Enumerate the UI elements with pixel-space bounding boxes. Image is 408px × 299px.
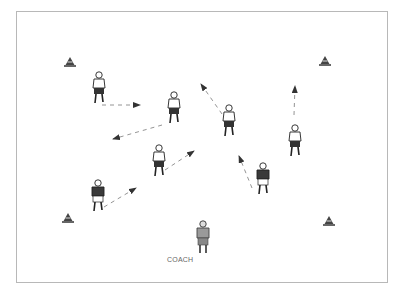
run-arrow	[201, 84, 222, 114]
player-white	[93, 72, 105, 103]
run-arrow	[294, 86, 295, 115]
drill-diagram	[0, 0, 408, 299]
cone-bottom-left	[62, 213, 74, 223]
pass-arrow	[104, 188, 136, 207]
player-white	[153, 145, 165, 176]
player-white	[289, 125, 301, 156]
player-dark	[257, 163, 269, 194]
cone-top-right	[319, 56, 331, 66]
run-arrow	[239, 156, 252, 188]
player-dark	[92, 180, 104, 211]
pass-arrow	[113, 125, 162, 139]
coach-label: COACH	[167, 256, 193, 263]
coach-figure	[197, 221, 209, 253]
cone-top-left	[64, 57, 76, 67]
cone-bottom-right	[323, 216, 335, 226]
player-white	[168, 92, 180, 123]
player-white	[223, 105, 235, 136]
pass-arrow	[165, 151, 194, 170]
